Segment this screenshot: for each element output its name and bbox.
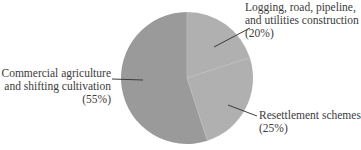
label-resettlement-line1: Resettlement schemes xyxy=(259,109,361,122)
label-commercial-line1: Commercial agriculture xyxy=(1,67,111,80)
label-resettlement: Resettlement schemes (25%) xyxy=(259,109,361,135)
label-commercial: Commercial agriculture and shifting cult… xyxy=(1,67,111,106)
label-commercial-pct: (55%) xyxy=(1,93,111,106)
label-logging: Logging, road, pipeline, and utilities c… xyxy=(245,1,359,40)
label-resettlement-pct: (25%) xyxy=(259,122,361,135)
label-logging-line1: Logging, road, pipeline, xyxy=(245,1,359,14)
label-logging-line2: and utilities construction xyxy=(245,14,359,27)
label-logging-pct: (20%) xyxy=(245,27,359,40)
label-commercial-line2: and shifting cultivation xyxy=(1,80,111,93)
